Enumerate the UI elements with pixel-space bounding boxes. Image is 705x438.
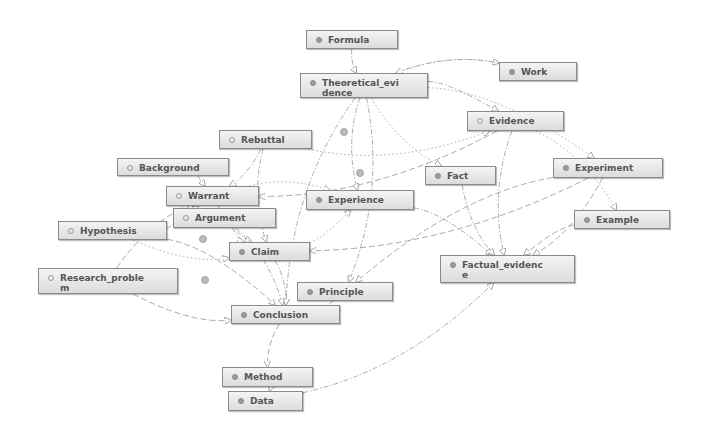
node-label: Data xyxy=(250,396,274,406)
node-label: Method xyxy=(244,372,282,382)
filled-circle-icon xyxy=(232,374,238,380)
node-label: Principle xyxy=(319,287,364,297)
node-label: Research_proble m xyxy=(60,273,144,293)
edge-theoretical_evidence-to-evidence xyxy=(428,82,498,111)
node-label: Claim xyxy=(251,247,279,257)
hollow-circle-icon xyxy=(176,193,182,199)
node-background[interactable]: Background xyxy=(117,158,229,176)
node-factual-evidence[interactable]: Factual_evidenc e xyxy=(440,255,575,283)
edge-fact-to-factual_evidence xyxy=(462,185,494,255)
filled-circle-icon xyxy=(316,197,322,203)
node-label: Background xyxy=(139,163,200,173)
edge-experience-to-factual_evidence xyxy=(414,208,492,255)
node-hypothesis[interactable]: Hypothesis xyxy=(58,221,167,240)
node-principle[interactable]: Principle xyxy=(297,282,393,301)
filled-circle-icon xyxy=(238,398,244,404)
filled-circle-icon xyxy=(584,217,590,223)
filled-circle-icon xyxy=(307,289,313,295)
node-formula[interactable]: Formula xyxy=(306,30,398,49)
node-label: Formula xyxy=(328,35,369,45)
edge-background-to-warrant xyxy=(198,176,205,186)
edge-work-to-theoretical_evidence xyxy=(396,59,499,73)
edge-theoretical_evidence-to-fact xyxy=(371,98,441,166)
node-method[interactable]: Method xyxy=(222,367,313,387)
node-work[interactable]: Work xyxy=(499,62,577,81)
edge-rebuttal-to-evidence xyxy=(309,131,490,155)
node-label: Hypothesis xyxy=(80,226,137,236)
edge-rebuttal-to-warrant xyxy=(230,149,261,186)
node-label: Conclusion xyxy=(253,310,308,320)
filled-circle-icon xyxy=(239,249,245,255)
node-experience[interactable]: Experience xyxy=(306,190,414,210)
node-research-problem[interactable]: Research_proble m xyxy=(38,268,178,294)
filled-circle-icon xyxy=(241,312,247,318)
hollow-circle-icon xyxy=(68,228,74,234)
node-label: Example xyxy=(596,215,639,225)
node-rebuttal[interactable]: Rebuttal xyxy=(219,130,312,149)
node-label: Evidence xyxy=(489,116,535,126)
node-theoretical-evidence[interactable]: Theoretical_evi dence xyxy=(300,73,428,98)
node-conclusion[interactable]: Conclusion xyxy=(231,305,340,324)
edge-evidence-to-factual_evidence xyxy=(498,131,512,255)
node-evidence[interactable]: Evidence xyxy=(467,111,564,131)
filled-circle-icon xyxy=(316,37,322,43)
filled-circle-icon xyxy=(310,80,316,86)
filled-circle-icon xyxy=(435,173,441,179)
node-label: Warrant xyxy=(188,191,229,201)
edge-argument-to-conclusion xyxy=(236,228,283,305)
node-label: Experience xyxy=(328,195,384,205)
node-label: Experiment xyxy=(575,163,633,173)
node-label: Rebuttal xyxy=(241,135,285,145)
hollow-circle-icon xyxy=(48,275,54,281)
hollow-circle-icon xyxy=(183,215,189,221)
node-label: Theoretical_evi dence xyxy=(322,78,399,98)
node-data[interactable]: Data xyxy=(228,391,303,411)
filled-circle-icon xyxy=(509,69,515,75)
hollow-circle-icon xyxy=(477,118,483,124)
node-warrant[interactable]: Warrant xyxy=(166,186,259,206)
node-label: Work xyxy=(521,67,547,77)
edge-claim-to-experience xyxy=(310,210,351,242)
edge-warrant-to-experience xyxy=(249,182,329,190)
filled-circle-icon xyxy=(450,262,456,268)
hollow-circle-icon xyxy=(127,165,133,171)
edge-formula-to-theoretical_evidence xyxy=(352,49,357,73)
hollow-circle-icon xyxy=(229,137,235,143)
edge-research_problem-to-conclusion xyxy=(133,294,231,321)
node-example[interactable]: Example xyxy=(574,210,670,229)
edge-conclusion-to-method xyxy=(267,324,279,367)
node-label: Fact xyxy=(447,171,468,181)
edge-experiment-to-claim xyxy=(310,178,588,251)
filled-circle-icon xyxy=(563,165,569,171)
ontology-graph-canvas: FormulaTheoretical_evi denceWorkEvidence… xyxy=(0,0,705,438)
edge-theoretical_evidence-to-work xyxy=(396,59,499,73)
node-experiment[interactable]: Experiment xyxy=(553,158,663,178)
node-label: Factual_evidenc e xyxy=(462,260,543,280)
node-label: Argument xyxy=(195,213,245,223)
node-argument[interactable]: Argument xyxy=(173,208,276,228)
node-claim[interactable]: Claim xyxy=(229,242,310,261)
node-fact[interactable]: Fact xyxy=(425,166,496,185)
